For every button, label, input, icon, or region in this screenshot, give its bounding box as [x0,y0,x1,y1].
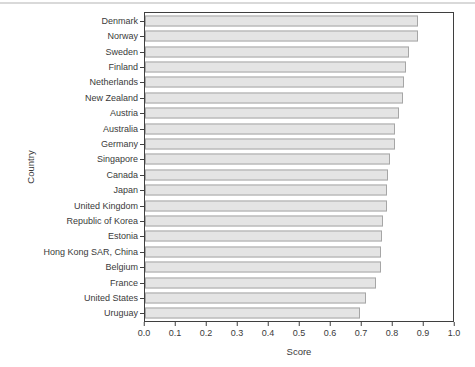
x-tick-mark [391,322,392,326]
category-label: Estonia [108,232,138,241]
bar [145,31,418,42]
x-tick: 0.0 [138,322,151,338]
bar [145,169,388,180]
y-tick-mark [140,283,144,284]
y-tick-mark [140,36,144,37]
plot-area: DenmarkNorwaySwedenFinlandNetherlandsNew… [144,12,454,322]
bar [145,138,395,149]
bar [145,293,366,304]
bar [145,108,399,119]
x-tick-label: 0.4 [262,329,275,338]
x-tick-label: 0.8 [386,329,399,338]
x-tick-mark [205,322,206,326]
x-tick-mark [453,322,454,326]
category-label: Germany [101,139,138,148]
x-tick-mark [298,322,299,326]
bar [145,277,376,288]
x-tick: 0.9 [417,322,430,338]
x-tick: 1.0 [448,322,461,338]
x-tick: 0.4 [262,322,275,338]
chart-row: Japan [145,182,453,197]
bar [145,185,387,196]
x-tick: 0.7 [355,322,368,338]
x-axis-title: Score [144,346,454,357]
y-tick-mark [140,313,144,314]
chart-row: Australia [145,121,453,136]
chart-row: Denmark [145,13,453,28]
category-label: Belgium [105,263,138,272]
chart-row: United States [145,290,453,305]
category-label: New Zealand [85,93,138,102]
chart-row: Uruguay [145,306,453,321]
category-label: Finland [108,62,138,71]
bar [145,77,404,88]
bar [145,246,381,257]
x-tick-label: 0.1 [169,329,182,338]
x-tick-mark [174,322,175,326]
bar [145,200,387,211]
x-tick: 0.3 [231,322,244,338]
y-tick-mark [140,52,144,53]
category-label: Sweden [105,47,138,56]
bar [145,15,418,26]
bar [145,215,383,226]
x-tick: 0.1 [169,322,182,338]
y-tick-mark [140,144,144,145]
category-label: Uruguay [104,309,138,318]
y-tick-mark [140,267,144,268]
chart-row: Canada [145,167,453,182]
x-tick-mark [329,322,330,326]
bar [145,123,395,134]
y-tick-mark [140,236,144,237]
y-tick-mark [140,67,144,68]
chart-figure: Country DenmarkNorwaySwedenFinlandNether… [0,0,475,367]
x-tick: 0.6 [324,322,337,338]
chart-row: Austria [145,105,453,120]
x-tick-label: 0.3 [231,329,244,338]
x-tick: 0.8 [386,322,399,338]
top-divider-rule [0,2,475,4]
x-tick-mark [236,322,237,326]
y-axis-title: Country [25,150,36,183]
category-label: United States [84,294,138,303]
chart-row: Netherlands [145,75,453,90]
category-label: Denmark [101,16,138,25]
x-axis-ticks: 0.00.10.20.30.40.50.60.70.80.91.0 [144,322,454,342]
bar [145,308,360,319]
category-label: Japan [113,186,138,195]
chart-row: New Zealand [145,90,453,105]
chart-row: Sweden [145,44,453,59]
chart-row: Estonia [145,229,453,244]
chart-row: Singapore [145,152,453,167]
category-label: Austria [110,109,138,118]
chart-row: Hong Kong SAR, China [145,244,453,259]
y-tick-mark [140,82,144,83]
x-tick-label: 0.5 [293,329,306,338]
y-tick-mark [140,21,144,22]
x-tick: 0.5 [293,322,306,338]
y-tick-mark [140,113,144,114]
chart-row: France [145,275,453,290]
bar [145,262,381,273]
x-tick-label: 0.7 [355,329,368,338]
y-tick-mark [140,129,144,130]
chart-row: Germany [145,136,453,151]
bar [145,61,406,72]
x-tick-label: 0.0 [138,329,151,338]
x-tick-label: 0.2 [200,329,213,338]
y-tick-mark [140,221,144,222]
x-tick-label: 1.0 [448,329,461,338]
x-tick-mark [143,322,144,326]
bar [145,154,390,165]
chart-row: Republic of Korea [145,213,453,228]
x-tick: 0.2 [200,322,213,338]
y-tick-mark [140,252,144,253]
category-label: Republic of Korea [66,216,138,225]
category-label: Canada [106,170,138,179]
chart-row: Norway [145,28,453,43]
y-tick-mark [140,98,144,99]
category-label: Australia [103,124,138,133]
category-label: Hong Kong SAR, China [43,247,138,256]
bar [145,92,403,103]
category-label: Singapore [97,155,138,164]
